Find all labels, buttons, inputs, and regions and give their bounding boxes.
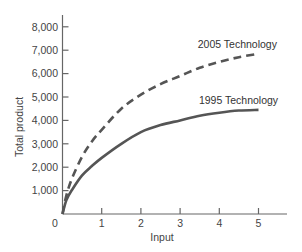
x-tick-label: 3: [177, 217, 183, 229]
label-2005-technology: 2005 Technology: [198, 38, 278, 50]
annotation-layer: 2005 Technology1995 Technology: [198, 38, 279, 106]
y-tick-label: 7,000: [32, 44, 58, 56]
y-tick-label: 1,000: [32, 184, 58, 196]
y-axis-title: Total product: [13, 97, 25, 157]
chart-canvas: 1,0002,0003,0004,0005,0006,0007,0008,000…: [0, 0, 302, 252]
series-2005-technology-line: [63, 54, 259, 214]
y-tick-label: 3,000: [32, 138, 58, 150]
y-tick-label: 6,000: [32, 67, 58, 79]
x-tick-label: 4: [216, 217, 222, 229]
x-axis-title: Input: [150, 231, 173, 243]
y-tick-label: 4,000: [32, 114, 58, 126]
x-axis: 123450: [52, 208, 287, 229]
total-product-chart: 1,0002,0003,0004,0005,0006,0007,0008,000…: [0, 0, 302, 252]
series-layer: [63, 54, 259, 214]
y-axis: 1,0002,0003,0004,0005,0006,0007,0008,000: [32, 15, 69, 214]
x-tick-label: 2: [138, 217, 144, 229]
label-1995-technology: 1995 Technology: [199, 94, 279, 106]
origin-label: 0: [52, 217, 58, 229]
y-tick-label: 2,000: [32, 161, 58, 173]
series-1995-technology-line: [63, 110, 259, 214]
y-tick-label: 8,000: [32, 21, 58, 33]
x-tick-label: 1: [99, 217, 105, 229]
x-tick-label: 5: [256, 217, 262, 229]
y-tick-label: 5,000: [32, 91, 58, 103]
